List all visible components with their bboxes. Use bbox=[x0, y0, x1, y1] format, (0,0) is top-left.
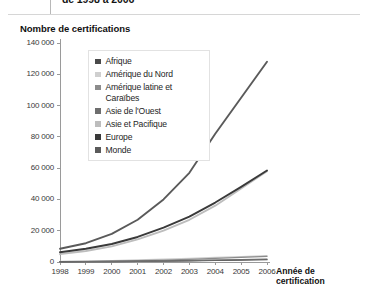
cut-off-heading-text: de 1998 à 2006 bbox=[62, 0, 134, 5]
x-axis-title-line-1: Année de bbox=[276, 266, 325, 276]
y-tick-label: 100 000 bbox=[8, 101, 54, 110]
x-axis-title: Année de certification bbox=[276, 266, 325, 286]
legend-swatch-icon bbox=[95, 59, 101, 65]
legend-swatch-icon bbox=[95, 108, 101, 114]
chart-legend: AfriqueAmérique du NordAmérique latine e… bbox=[88, 50, 210, 161]
y-tick-label: 60 000 bbox=[8, 163, 54, 172]
legend-swatch-icon bbox=[95, 72, 101, 78]
legend-item-label: Monde bbox=[106, 145, 132, 156]
screenshot-root: de 1998 à 2006 Nombre de certifications … bbox=[0, 0, 368, 295]
legend-item: Asie et Pacifique bbox=[95, 119, 203, 130]
cut-off-heading-strip: de 1998 à 2006 bbox=[0, 0, 368, 14]
legend-item-label: Afrique bbox=[106, 56, 132, 67]
legend-item-label: Asie de l'Ouest bbox=[106, 106, 161, 117]
y-tick-label: 140 000 bbox=[8, 38, 54, 47]
legend-item: Afrique bbox=[95, 56, 203, 67]
legend-item-label: Amérique latine et Caraïbes bbox=[106, 82, 204, 103]
y-tick-label: 40 000 bbox=[8, 194, 54, 203]
legend-swatch-icon bbox=[95, 85, 101, 91]
legend-item-label: Europe bbox=[106, 132, 133, 143]
legend-item: Amérique latine et Caraïbes bbox=[95, 82, 203, 103]
legend-swatch-icon bbox=[95, 121, 101, 127]
legend-item: Amérique du Nord bbox=[95, 69, 203, 80]
x-axis-title-line-2: certification bbox=[276, 276, 325, 286]
series-line bbox=[60, 170, 267, 252]
legend-swatch-icon bbox=[95, 134, 101, 140]
y-tick-label: 80 000 bbox=[8, 132, 54, 141]
legend-swatch-icon bbox=[95, 147, 101, 153]
legend-item-label: Amérique du Nord bbox=[106, 69, 173, 80]
legend-item: Europe bbox=[95, 132, 203, 143]
figure-card: Nombre de certifications 020 00040 00060… bbox=[8, 14, 360, 295]
legend-item-label: Asie et Pacifique bbox=[106, 119, 167, 130]
y-tick-label: 0 bbox=[8, 257, 54, 266]
legend-item: Monde bbox=[95, 145, 203, 156]
heading-rule bbox=[50, 0, 51, 14]
legend-item: Asie de l'Ouest bbox=[95, 106, 203, 117]
y-tick-label: 20 000 bbox=[8, 226, 54, 235]
y-tick-label: 120 000 bbox=[8, 69, 54, 78]
